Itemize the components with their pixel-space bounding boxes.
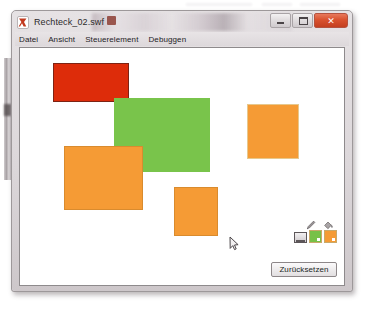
scan-artifact-2 [262,3,292,6]
tool-row-top [281,217,337,228]
monitor-swatch[interactable] [294,232,307,243]
titlebar-artifact-blob [107,16,116,25]
tool-row-swatches [281,230,337,243]
window-controls: ✕ [270,13,348,28]
orange-swatch[interactable] [324,230,337,243]
titlebar-scan-noise [92,13,292,31]
scan-artifact-3 [300,3,340,6]
orange-swatch-nub [332,238,335,241]
rectangle-orange-right[interactable] [247,104,299,159]
tool-cluster [281,217,337,243]
pencil-icon[interactable] [305,217,316,228]
flash-swf-icon [17,15,29,28]
green-swatch[interactable] [309,230,322,243]
green-swatch-nub [317,238,320,241]
maximize-button[interactable] [292,13,313,28]
maximize-icon [299,17,308,25]
menu-item-debuggen[interactable]: Debuggen [148,35,186,44]
menu-item-ansicht[interactable]: Ansicht [48,35,75,44]
menu-item-datei[interactable]: Datei [19,35,38,44]
paint-bucket-icon[interactable] [323,217,334,228]
flash-stage[interactable]: Zurücksetzen [20,48,344,285]
rectangle-orange-bottom[interactable] [174,187,218,236]
menubar: Datei Ansicht Steuerelement Debuggen [15,32,349,46]
window-title: Rechteck_02.swf [34,17,104,27]
minimize-button[interactable] [270,13,291,28]
background-window-edge [4,58,11,180]
rectangle-red[interactable] [53,63,129,102]
close-icon: ✕ [315,16,347,25]
reset-button[interactable]: Zurücksetzen [271,262,337,277]
rectangle-orange-left[interactable] [64,146,143,210]
mouse-cursor [229,236,240,251]
minimize-icon [277,22,284,24]
titlebar: Rechteck_02.swf ✕ [12,11,352,32]
menu-item-steuerelement[interactable]: Steuerelement [85,35,138,44]
flash-stage-border: Zurücksetzen [19,47,345,286]
close-button[interactable]: ✕ [314,13,348,28]
flash-player-window: Rechteck_02.swf ✕ Datei Ansicht Steuerel… [11,10,353,292]
scan-artifact-1 [186,3,252,6]
